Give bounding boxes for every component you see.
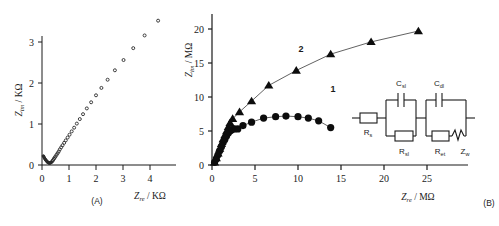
svg-text:20: 20 xyxy=(194,24,204,35)
data-point xyxy=(113,69,116,72)
resistor-rs xyxy=(360,113,377,123)
data-point xyxy=(85,107,88,110)
data-point xyxy=(90,101,93,104)
data-point xyxy=(75,122,78,125)
curve-label-1: 1 xyxy=(330,84,335,94)
data-point-circle xyxy=(260,114,267,121)
y-axis-label-a: Zim / KΩ xyxy=(14,83,25,116)
svg-text:4: 4 xyxy=(148,173,153,184)
data-point xyxy=(68,133,71,136)
svg-text:Zim / MΩ: Zim / MΩ xyxy=(184,43,195,78)
resistor-ret xyxy=(432,131,449,141)
curve-label-2: 2 xyxy=(298,44,303,54)
data-point-circle xyxy=(294,113,301,120)
svg-text:3: 3 xyxy=(29,37,34,48)
label-cdl: Cdl xyxy=(434,79,444,89)
data-point-triangle xyxy=(292,66,301,74)
svg-text:0: 0 xyxy=(199,160,204,171)
svg-text:10: 10 xyxy=(293,173,303,184)
data-point xyxy=(122,59,125,62)
y-axis-label-b: Zim / MΩ xyxy=(184,43,195,78)
data-point-circle xyxy=(282,112,289,119)
label-rsl: Rsl xyxy=(399,147,409,157)
data-point-circle xyxy=(315,117,322,124)
svg-text:2: 2 xyxy=(29,78,34,89)
data-point xyxy=(82,113,85,116)
svg-text:25: 25 xyxy=(422,173,432,184)
svg-text:15: 15 xyxy=(336,173,346,184)
y-ticks-b: 0 5 10 15 20 xyxy=(194,24,212,171)
x-ticks-a: 0 1 2 3 4 xyxy=(40,165,153,184)
y-ticks-a: 0 1 2 3 xyxy=(29,37,42,171)
panel-a-caption: (A) xyxy=(67,196,127,206)
svg-text:15: 15 xyxy=(194,58,204,69)
svg-text:10: 10 xyxy=(194,92,204,103)
x-axis-label-a: Zre / KΩ xyxy=(134,191,166,202)
data-series-a xyxy=(42,19,160,164)
panel-a: 0 1 2 3 0 1 2 3 4 Zim / KΩ xyxy=(0,0,195,226)
data-point-triangle xyxy=(264,81,273,89)
panel-b-caption: (B) xyxy=(459,198,499,208)
data-point xyxy=(78,118,81,121)
data-point xyxy=(106,78,109,81)
svg-text:5: 5 xyxy=(199,126,204,137)
data-point-circle xyxy=(248,119,255,126)
data-point-circle xyxy=(327,124,334,131)
data-series-b xyxy=(210,27,423,166)
data-point-circle xyxy=(305,114,312,121)
label-ret: Ret xyxy=(435,147,446,157)
data-point-circle xyxy=(272,113,279,120)
svg-text:3: 3 xyxy=(121,173,126,184)
svg-text:Zim / KΩ: Zim / KΩ xyxy=(14,83,25,116)
svg-text:20: 20 xyxy=(379,173,389,184)
svg-text:0: 0 xyxy=(210,173,215,184)
panel-b-plot: 0 5 10 15 20 0 5 10 15 20 25 xyxy=(178,0,486,226)
svg-text:0: 0 xyxy=(40,173,45,184)
label-csl: Csl xyxy=(396,79,406,89)
data-point xyxy=(70,130,73,133)
label-rs: Rs xyxy=(364,128,373,138)
svg-text:0: 0 xyxy=(29,160,34,171)
panel-b: 0 5 10 15 20 0 5 10 15 20 25 xyxy=(178,0,486,226)
svg-text:2: 2 xyxy=(94,173,99,184)
warburg-element-zw xyxy=(452,130,464,140)
resistor-rsl xyxy=(395,131,413,141)
data-point xyxy=(73,126,76,129)
x-axis-label-b: Zre / MΩ xyxy=(401,192,434,203)
label-zw: Zw xyxy=(461,147,470,157)
data-point xyxy=(64,139,67,142)
data-point xyxy=(100,86,103,89)
x-ticks-b: 0 5 10 15 20 25 xyxy=(210,165,433,184)
data-point xyxy=(66,136,69,139)
svg-text:1: 1 xyxy=(29,119,34,130)
data-point xyxy=(157,19,160,22)
series-line-2 xyxy=(215,31,419,162)
data-point xyxy=(132,47,135,50)
panel-a-plot: 0 1 2 3 0 1 2 3 4 Zim / KΩ xyxy=(0,0,195,226)
data-point xyxy=(95,94,98,97)
svg-text:5: 5 xyxy=(253,173,258,184)
svg-text:1: 1 xyxy=(67,173,72,184)
data-point xyxy=(143,34,146,37)
data-point-triangle xyxy=(414,27,423,35)
data-point-circle xyxy=(239,122,246,129)
